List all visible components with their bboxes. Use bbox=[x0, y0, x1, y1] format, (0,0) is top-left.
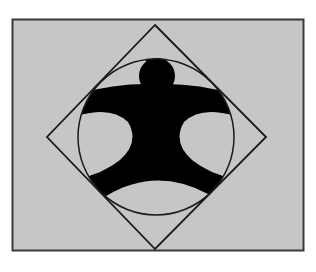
figure-head bbox=[139, 58, 175, 94]
diagram-canvas bbox=[0, 0, 316, 272]
